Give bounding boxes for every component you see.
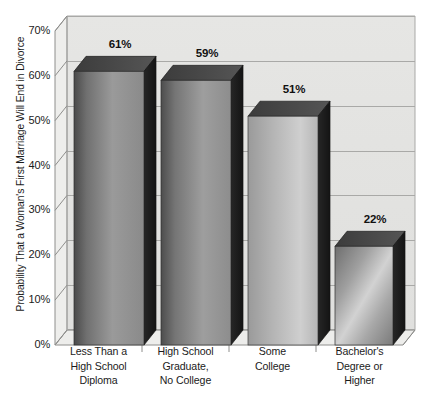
- x-tick-line: No College: [142, 373, 229, 388]
- bar-value-label: 22%: [346, 213, 404, 225]
- x-tick-label: Less Than a High School Diploma: [55, 344, 142, 388]
- x-tick-line: High School: [55, 359, 142, 374]
- x-tick-line: Degree or: [316, 359, 403, 374]
- bar-chart: 70% 60% 50% 40% 30% 20% 10% 0% Probabili…: [0, 0, 429, 393]
- x-tick-line: High School: [142, 344, 229, 359]
- bar-item: [74, 56, 156, 345]
- bar-item: [161, 65, 243, 345]
- bar-item: [248, 101, 330, 345]
- x-tick-line: College: [229, 359, 316, 374]
- x-tick-label: High School Graduate, No College: [142, 344, 229, 388]
- bar-value-label: 51%: [259, 83, 329, 95]
- x-tick-line: Diploma: [55, 373, 142, 388]
- x-tick-line: Graduate,: [142, 359, 229, 374]
- bar-item: [335, 231, 405, 345]
- x-tick-line: Some: [229, 344, 316, 359]
- bar-value-label: 59%: [172, 47, 242, 59]
- x-tick-label: Bachelor's Degree or Higher: [316, 344, 403, 388]
- bar-value-label: 61%: [85, 38, 155, 50]
- x-tick-line: Less Than a: [55, 344, 142, 359]
- x-tick-label: Some College: [229, 344, 316, 373]
- x-tick-line: Bachelor's: [316, 344, 403, 359]
- x-tick-line: Higher: [316, 373, 403, 388]
